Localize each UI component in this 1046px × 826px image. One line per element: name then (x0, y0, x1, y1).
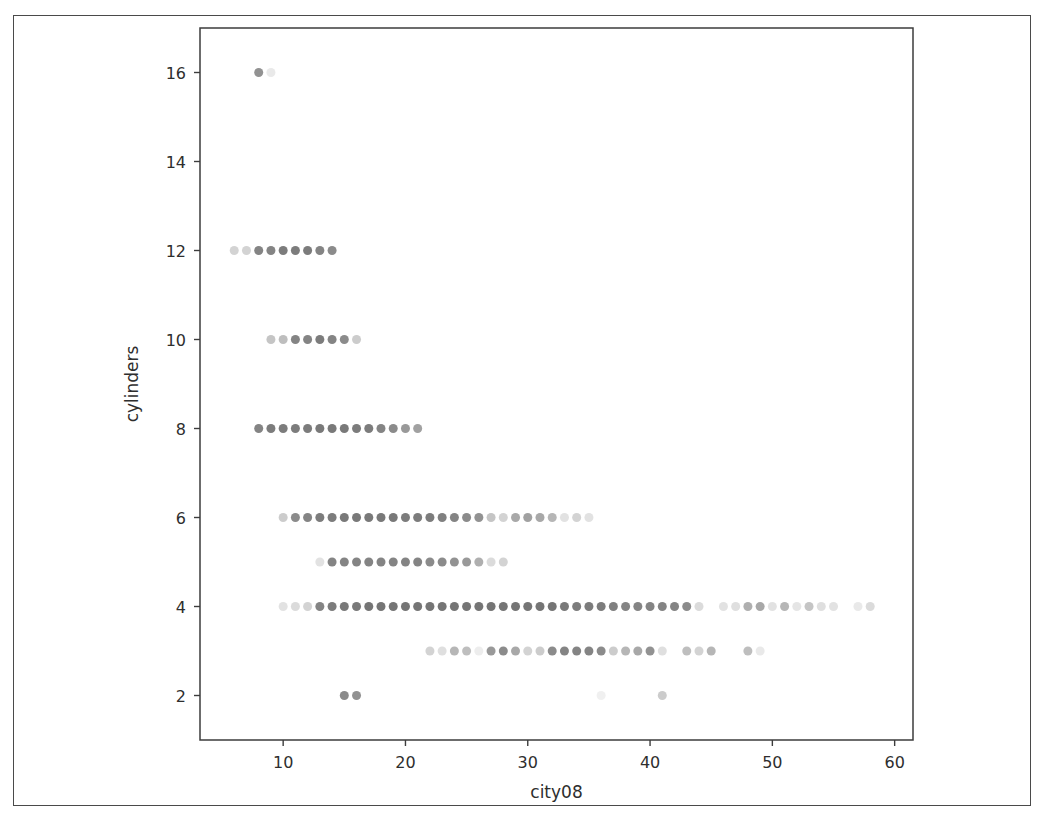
data-point (621, 602, 630, 611)
x-tick-label: 60 (884, 753, 904, 772)
data-point (364, 513, 373, 522)
data-point (291, 424, 300, 433)
x-tick-label: 30 (518, 753, 538, 772)
data-point (780, 602, 789, 611)
data-point (328, 246, 337, 255)
data-point (694, 647, 703, 656)
data-point (364, 602, 373, 611)
scatter-plot-svg: 102030405060 246810121416 city08 cylinde… (0, 0, 1046, 826)
data-point (377, 602, 386, 611)
data-point (450, 513, 459, 522)
data-point (315, 513, 324, 522)
data-point (425, 558, 434, 567)
y-axis-label: cylinders (122, 346, 142, 423)
data-point (487, 647, 496, 656)
data-point (474, 513, 483, 522)
data-point (719, 602, 728, 611)
data-point (499, 647, 508, 656)
data-point (487, 602, 496, 611)
x-tick-label: 50 (762, 753, 782, 772)
x-axis-label: city08 (530, 782, 582, 802)
data-point (584, 602, 593, 611)
data-point (315, 424, 324, 433)
data-point (548, 513, 557, 522)
data-point (548, 647, 557, 656)
data-point (328, 424, 337, 433)
y-tick-label: 14 (166, 153, 186, 172)
data-point (279, 246, 288, 255)
data-point (584, 647, 593, 656)
data-point (377, 424, 386, 433)
data-point (364, 424, 373, 433)
data-point (328, 335, 337, 344)
data-point (572, 513, 581, 522)
data-point (303, 602, 312, 611)
data-point (474, 647, 483, 656)
data-point (340, 424, 349, 433)
data-point (315, 335, 324, 344)
data-point (560, 602, 569, 611)
data-point (438, 602, 447, 611)
data-point (315, 558, 324, 567)
data-point (597, 602, 606, 611)
data-point (315, 246, 324, 255)
data-point (511, 513, 520, 522)
scatter-plot-figure: 102030405060 246810121416 city08 cylinde… (0, 0, 1046, 826)
data-point (474, 602, 483, 611)
data-point (389, 424, 398, 433)
data-point (560, 647, 569, 656)
data-point (805, 602, 814, 611)
data-point (621, 647, 630, 656)
data-point (401, 602, 410, 611)
data-point (560, 513, 569, 522)
plot-axes-spines (200, 28, 913, 740)
y-tick-label: 16 (166, 64, 186, 83)
data-point (609, 647, 618, 656)
y-tick-label: 6 (176, 509, 186, 528)
data-point (535, 602, 544, 611)
y-tick-label: 2 (176, 687, 186, 706)
data-point (389, 513, 398, 522)
data-point (462, 558, 471, 567)
data-point (487, 558, 496, 567)
data-point (694, 602, 703, 611)
data-point (499, 513, 508, 522)
data-point (756, 647, 765, 656)
data-point (291, 602, 300, 611)
data-point (413, 513, 422, 522)
data-point (279, 602, 288, 611)
x-tick-label: 20 (395, 753, 415, 772)
data-point (438, 558, 447, 567)
data-point (340, 513, 349, 522)
data-point (352, 602, 361, 611)
data-point (413, 602, 422, 611)
data-point (328, 602, 337, 611)
data-point (266, 424, 275, 433)
data-point (364, 558, 373, 567)
x-axis-ticks: 102030405060 (273, 740, 905, 772)
data-point (523, 602, 532, 611)
data-point (377, 513, 386, 522)
data-point (450, 558, 459, 567)
data-point (609, 602, 618, 611)
data-point (266, 335, 275, 344)
data-point-markers (230, 68, 875, 700)
data-point (291, 246, 300, 255)
data-point (597, 647, 606, 656)
data-point (682, 602, 691, 611)
data-point (462, 602, 471, 611)
data-point (548, 602, 557, 611)
data-point (303, 335, 312, 344)
data-point (425, 602, 434, 611)
data-point (303, 246, 312, 255)
data-point (254, 68, 263, 77)
data-point (389, 602, 398, 611)
screenshot-page: 102030405060 246810121416 city08 cylinde… (0, 0, 1046, 826)
data-point (707, 647, 716, 656)
data-point (658, 647, 667, 656)
data-point (572, 647, 581, 656)
data-point (584, 513, 593, 522)
data-point (266, 68, 275, 77)
data-point (303, 513, 312, 522)
data-point (450, 602, 459, 611)
